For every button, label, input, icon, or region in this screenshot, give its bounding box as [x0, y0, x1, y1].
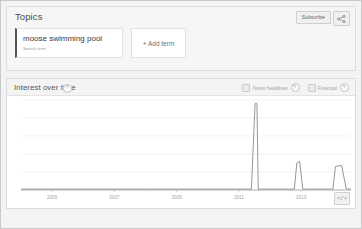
interest-over-time-header: Interest over time News headlines Foreca… — [7, 79, 355, 96]
share-button[interactable] — [333, 11, 350, 26]
share-icon — [337, 15, 346, 23]
search-terms-row: moose swimming pool Search term + Add te… — [15, 28, 186, 58]
topics-card: Topics Subscribe moose swimming pool Sea… — [6, 6, 356, 71]
subscribe-button[interactable]: Subscribe — [296, 11, 331, 24]
page-title: Topics — [15, 11, 43, 22]
forecast-help-question-icon[interactable] — [340, 83, 349, 92]
chart-options: News headlines Forecast — [242, 83, 349, 92]
forecast-checkbox[interactable] — [308, 84, 316, 92]
option-news-headlines[interactable]: News headlines — [242, 83, 299, 92]
search-term-sublabel: Search term — [23, 46, 46, 51]
svg-text:2013: 2013 — [296, 195, 307, 200]
svg-text:2005: 2005 — [47, 195, 58, 200]
option-forecast[interactable]: Forecast — [308, 83, 349, 92]
chart-series-group — [21, 104, 351, 190]
interest-over-time-plot[interactable]: 20052007200920112013 — [7, 96, 355, 208]
topics-header: Topics Subscribe — [7, 7, 355, 28]
interest-over-time-card: Interest over time News headlines Foreca… — [6, 78, 356, 209]
embed-label: </> — [335, 193, 349, 204]
forecast-label: Forecast — [318, 85, 337, 91]
news-headlines-help-question-icon[interactable] — [291, 83, 300, 92]
search-term-label: moose swimming pool — [23, 34, 102, 43]
chart-axis-tick-labels: 20052007200920112013 — [47, 195, 307, 200]
embed-button[interactable]: </> — [334, 192, 350, 205]
interest-chart[interactable]: 20052007200920112013 </> — [7, 96, 355, 208]
svg-text:2009: 2009 — [172, 195, 183, 200]
news-headlines-checkbox[interactable] — [242, 84, 250, 92]
trends-page: Topics Subscribe moose swimming pool Sea… — [0, 0, 362, 229]
help-question-icon[interactable] — [63, 84, 72, 93]
news-headlines-label: News headlines — [253, 85, 288, 91]
svg-text:2007: 2007 — [109, 195, 120, 200]
add-term-button[interactable]: + Add term — [131, 28, 186, 58]
svg-text:2011: 2011 — [234, 195, 244, 200]
search-term-chip[interactable]: moose swimming pool Search term — [15, 28, 123, 58]
